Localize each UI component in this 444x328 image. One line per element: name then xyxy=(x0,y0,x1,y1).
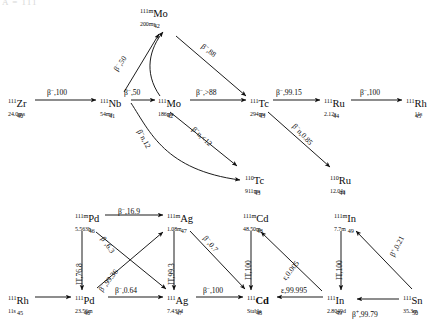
element-symbol: Rh xyxy=(17,295,29,306)
atomic-number: 49 xyxy=(348,228,354,234)
mass-number: 111 xyxy=(403,294,412,301)
element-symbol: Ru xyxy=(333,98,345,109)
mass-number: 111 xyxy=(250,97,259,104)
nuclide-ag-111[interactable]: 11147Ag 7.433d xyxy=(167,295,188,315)
nuclide-tc-110[interactable]: 11043Tc 911ms xyxy=(245,175,264,195)
element-symbol: Pd xyxy=(84,295,95,306)
nuclide-tc-111[interactable]: 11143Tc 294ms xyxy=(250,98,269,118)
element-symbol: Cd xyxy=(256,295,269,306)
mass-number: 111 xyxy=(8,294,17,301)
element-symbol: Zr xyxy=(17,98,27,109)
mass-number: 111 xyxy=(247,294,256,301)
atomic-number: 42 xyxy=(154,23,160,29)
atomic-number: 48 xyxy=(257,228,263,234)
atomic-number: 44 xyxy=(339,190,345,196)
nuclide-mo-111m[interactable]: 111m42Mo 200ms xyxy=(140,8,168,28)
arrow-nb111-mo111m xyxy=(124,34,159,92)
transition-label-in111m-in111: IT,100 xyxy=(336,260,344,280)
mass-number: 111m xyxy=(334,212,347,219)
nuclide-mo-111[interactable]: 11142Mo 186ms xyxy=(158,98,181,118)
atomic-number: 49 xyxy=(336,310,342,316)
mass-number: 111m xyxy=(167,212,180,219)
atomic-number: 43 xyxy=(254,190,260,196)
half-life: 5.563h xyxy=(75,227,99,233)
transition-label-pd111m-ag111m: β−,16.9 xyxy=(118,207,140,215)
transition-label-zr111-nb111: β−,100 xyxy=(47,88,67,96)
mass-number: 111 xyxy=(167,294,176,301)
transition-label-cd111m-cd111: IT,100 xyxy=(245,260,253,280)
mass-number: 111m xyxy=(140,7,153,14)
arrow-tc111-ru110 xyxy=(268,112,330,167)
atomic-number: 48 xyxy=(256,310,262,316)
nuclide-ru-111[interactable]: 11144Ru 2.12s xyxy=(324,98,345,118)
element-symbol: Tc xyxy=(259,98,269,109)
transition-label-pd111m-pd111: IT,76.8 xyxy=(76,263,84,285)
nuclide-pd-111[interactable]: 11146Pd 23.56m xyxy=(75,295,95,315)
transition-label-ag111-cd111: β−,100 xyxy=(203,286,223,294)
element-symbol: In xyxy=(336,295,345,306)
mass-number: 111 xyxy=(158,97,167,104)
atomic-number: 40 xyxy=(17,113,23,119)
nuclide-in-111m[interactable]: 111m49In 7.7m xyxy=(334,213,356,233)
transition-label-ag111m-ag111: IT,99.3 xyxy=(168,263,176,285)
atomic-number: 43 xyxy=(259,113,265,119)
mass-number: 111 xyxy=(8,97,17,104)
atomic-number: 42 xyxy=(167,113,173,119)
mass-number: 110 xyxy=(330,174,339,181)
nuclide-pd-111m[interactable]: 111m46Pd 5.563h xyxy=(75,213,99,233)
nuclide-rh-111-top[interactable]: 11145Rh 11s xyxy=(406,98,427,118)
element-symbol: Mo xyxy=(167,98,182,109)
element-symbol: Tc xyxy=(254,175,264,186)
element-symbol: Nb xyxy=(109,98,122,109)
atomic-number: 45 xyxy=(415,113,421,119)
atomic-number: 41 xyxy=(109,113,115,119)
nuclide-nb-111[interactable]: 11141Nb 54ms xyxy=(100,98,121,118)
nuclide-rh-111-bottom[interactable]: 11145Rh 11s xyxy=(8,295,29,315)
mass-number: 111 xyxy=(327,294,336,301)
transition-arrows-layer xyxy=(0,0,444,328)
decay-chain-diagram: A = 111 xyxy=(0,0,444,328)
element-symbol: Rh xyxy=(415,98,427,109)
atomic-number: 50 xyxy=(412,310,418,316)
atomic-number: 44 xyxy=(333,113,339,119)
transition-label-nb111-mo111: β−,50 xyxy=(124,88,140,96)
transition-label-in111-cd111: ε,99.995 xyxy=(281,287,307,295)
nuclide-sn-111[interactable]: 11150Sn 35.3m xyxy=(403,295,423,315)
mass-number: 110 xyxy=(245,174,254,181)
atomic-number: 47 xyxy=(176,310,182,316)
element-symbol: Ag xyxy=(176,295,189,306)
mass-number: 111m xyxy=(243,212,256,219)
atomic-number: 45 xyxy=(17,310,23,316)
element-symbol: Pd xyxy=(88,213,99,224)
nuclide-in-111[interactable]: 11149In 2.8049d xyxy=(327,295,346,315)
nuclide-ag-111m[interactable]: 111m47Ag 1.08m xyxy=(167,213,193,233)
nuclide-ru-110[interactable]: 11044Ru 12.04s xyxy=(330,175,351,195)
mass-number: 111 xyxy=(75,294,84,301)
element-symbol: Sn xyxy=(412,295,423,306)
transition-label-ru111-rh111: β−,100 xyxy=(360,88,380,96)
element-symbol: Ag xyxy=(180,213,193,224)
element-symbol: Cd xyxy=(256,213,268,224)
atomic-number: 46 xyxy=(89,228,95,234)
transition-label-pd111-ag111: β−,0.64 xyxy=(115,286,137,294)
nuclide-cd-111m[interactable]: 111m48Cd 48.50m xyxy=(243,213,269,233)
transition-label-sn111-in111: β+,99.79 xyxy=(352,310,378,318)
mass-number: 111 xyxy=(406,97,415,104)
atomic-number: 46 xyxy=(84,310,90,316)
mass-number: 111 xyxy=(100,97,109,104)
mass-number: 111m xyxy=(75,212,88,219)
element-symbol: In xyxy=(347,213,356,224)
transition-label-tc111-ru111: β−,99.15 xyxy=(276,88,302,96)
arrow-ag111m-cd111 xyxy=(190,231,245,289)
transition-label-mo111-tc111: β−,>88 xyxy=(196,88,217,96)
element-symbol: Ru xyxy=(339,175,351,186)
arrow-mo111-mo111m-curve xyxy=(150,32,163,96)
nuclide-cd-111-stable[interactable]: 11148Cd Stable xyxy=(247,295,269,315)
nuclide-zr-111[interactable]: 11140Zr 24.0ms xyxy=(8,98,26,118)
element-symbol: Mo xyxy=(153,8,168,19)
mass-number: 111 xyxy=(324,97,333,104)
atomic-number: 47 xyxy=(181,228,187,234)
